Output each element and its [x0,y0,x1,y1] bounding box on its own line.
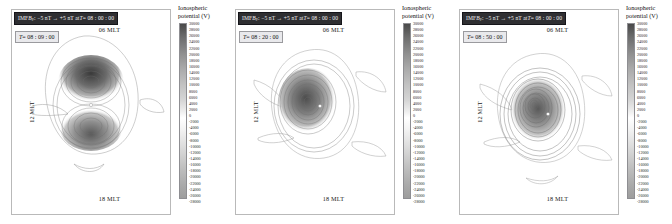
colorbar-tick: -24000 [637,188,672,192]
title-time-value-1: = 08 : 00 : 00 [83,13,114,24]
colorbar-tick: -6000 [413,132,453,136]
colorbar-tick: -2000 [413,120,453,124]
colorbar-2: Ionospheric potential (V) 30000280002600… [402,4,454,220]
colorbar-tick: 24000 [413,40,453,44]
colorbar-tick: -14000 [413,157,453,161]
panel-title-2: IMF By: −5 nT → +5 nT at T = 08 : 00 : 0… [238,12,342,25]
colorbar-tick: 4000 [637,102,672,106]
mlt-label-bottom-1: 18 MLT [99,195,120,202]
colorbar-tick: -16000 [189,163,229,167]
colorbar-tick: -12000 [413,151,453,155]
colorbar-tick: -10000 [637,145,672,149]
colorbar-tick: 30000 [189,22,229,26]
colorbar-tick: -22000 [413,182,453,186]
colorbar-tick: 8000 [189,90,229,94]
colorbar-tick: -2000 [637,120,672,124]
colorbar-tick: 28000 [189,28,229,32]
colorbar-tick: -12000 [189,151,229,155]
colorbar-tick: 18000 [413,59,453,63]
time-stamp-2: T = 08 : 20 : 00 [239,31,283,43]
colorbar-tick: 16000 [189,65,229,69]
colorbar-tick: -14000 [189,157,229,161]
colorbar-tick: 6000 [637,96,672,100]
colorbar-tick: 12000 [189,77,229,81]
colorbar-tick: -6000 [189,132,229,136]
colorbar-tick: 30000 [413,22,453,26]
colorbar-tick: 8000 [413,90,453,94]
title-prefix-2: IMF [242,13,252,24]
colorbar-tick: 22000 [637,47,672,51]
colorbar-tick: -12000 [637,151,672,155]
colorbar-title-3: Ionospheric potential (V) [626,4,672,19]
mlt-label-left-3: 12 MLT [476,101,483,122]
mlt-label-left-2: 12 MLT [252,101,259,122]
colorbar-tick: -8000 [413,139,453,143]
colorbar-tick: -26000 [637,194,672,198]
colorbar-tick: 2000 [189,108,229,112]
time-stamp-1: T = 08 : 09 : 00 [15,31,59,43]
colorbar-tick: 10000 [637,83,672,87]
colorbar-tick: 6000 [189,96,229,100]
colorbar-ticks-2: 3000028000260002400022000200001800016000… [413,18,453,204]
colorbar-tick: 0 [637,114,672,118]
colorbar-tick: 8000 [637,90,672,94]
colorbar-tick: -14000 [637,157,672,161]
colorbar-gradient-1 [179,23,187,199]
colorbar-tick: 26000 [637,34,672,38]
colorbar-tick: 6000 [413,96,453,100]
colorbar-tick: 20000 [413,53,453,57]
colorbar-tick: 10000 [413,83,453,87]
colorbar-tick: 26000 [413,34,453,38]
colorbar-title-line1-3: Ionospheric [626,4,672,12]
colorbar-title-line1-1: Ionospheric [178,4,230,12]
colorbar-tick: -8000 [637,139,672,143]
colorbar-tick: 18000 [637,59,672,63]
colorbar-tick: -26000 [413,194,453,198]
colorbar-tick: -4000 [189,126,229,130]
colorbar-tick: -16000 [413,163,453,167]
colorbar-gradient-2 [403,23,411,199]
colorbar-tick: 14000 [637,71,672,75]
colorbar-tick: -2000 [189,120,229,124]
colorbar-tick: -28000 [413,200,453,204]
colorbar-tick: 28000 [413,28,453,32]
colorbar-tick: -8000 [189,139,229,143]
colorbar-tick: 14000 [189,71,229,75]
colorbar-tick: -10000 [413,145,453,149]
figure-root: IMF By: −5 nT → +5 nT at T = 08 : 00 : 0… [0,0,672,224]
colorbar-tick: -4000 [413,126,453,130]
mlt-label-bottom-3: 18 MLT [547,195,568,202]
colorbar-3: Ionospheric potential (V) 30000280002600… [626,4,672,220]
colorbar-tick: 2000 [413,108,453,112]
colorbar-tick: -26000 [189,194,229,198]
title-prefix-3: IMF [466,13,476,24]
colorbar-tick: 22000 [413,47,453,51]
colorbar-tick: 16000 [413,65,453,69]
time-value-1: = 08 : 09 : 00 [22,33,54,42]
colorbar-1: Ionospheric potential (V) 30000280002600… [178,4,230,220]
colorbar-tick: 4000 [413,102,453,106]
colorbar-tick: 4000 [189,102,229,106]
colorbar-tick: -10000 [189,145,229,149]
colorbar-ticks-3: 3000028000260002400022000200001800016000… [637,18,672,204]
colorbar-tick: -20000 [637,175,672,179]
colorbar-ticks-1: 3000028000260002400022000200001800016000… [189,18,229,204]
title-rest-3: : −5 nT → +5 nT at [482,13,528,24]
colorbar-tick: 0 [413,114,453,118]
colorbar-title-line1-2: Ionospheric [402,4,454,12]
panel-title-3: IMF By: −5 nT → +5 nT at T = 08 : 00 : 0… [462,12,566,25]
title-rest-1: : −5 nT → +5 nT at [34,13,80,24]
colorbar-tick: 24000 [637,40,672,44]
title-rest-2: : −5 nT → +5 nT at [258,13,304,24]
mlt-label-top-2: 06 MLT [323,26,344,33]
colorbar-tick: 2000 [637,108,672,112]
colorbar-gradient-3 [627,23,635,199]
title-prefix-1: IMF [18,13,28,24]
colorbar-tick: 10000 [189,83,229,87]
colorbar-tick: -20000 [413,175,453,179]
time-value-2: = 08 : 20 : 00 [246,33,278,42]
mlt-label-bottom-2: 18 MLT [323,195,344,202]
colorbar-tick: -22000 [189,182,229,186]
colorbar-tick: 30000 [637,22,672,26]
colorbar-tick: -24000 [189,188,229,192]
